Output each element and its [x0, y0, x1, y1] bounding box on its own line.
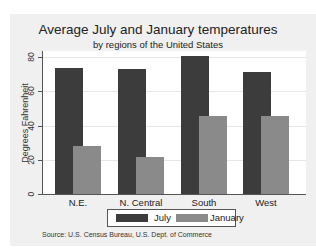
- legend-swatch-january: [176, 214, 208, 222]
- x-tick-label: South: [169, 197, 239, 208]
- y-tick-mark: [38, 194, 42, 195]
- y-axis: [42, 51, 43, 195]
- legend-label-july: July: [154, 212, 171, 223]
- y-tick-label: 80: [26, 50, 36, 64]
- x-tick-label: N. Central: [106, 197, 176, 208]
- gridline: [42, 57, 306, 58]
- bar-january: [73, 146, 101, 194]
- y-tick-mark: [38, 57, 42, 58]
- x-tick-label: West: [231, 197, 301, 208]
- y-tick-mark: [38, 91, 42, 92]
- bar-january: [199, 116, 227, 194]
- y-tick-mark: [38, 126, 42, 127]
- chart-subtitle: by regions of the United States: [0, 39, 316, 50]
- x-axis: [42, 194, 306, 195]
- legend-label-january: January: [210, 212, 244, 223]
- bar-january: [261, 116, 289, 194]
- y-tick-label: 0: [26, 187, 36, 201]
- y-axis-title: Degrees Fahrenheit: [19, 78, 31, 168]
- source-note: Source: U.S. Census Bureau, U.S. Dept. o…: [42, 231, 212, 238]
- legend: July January: [107, 209, 236, 227]
- bar-january: [136, 157, 164, 194]
- x-tick-label: N.E.: [43, 197, 113, 208]
- legend-swatch-july: [116, 214, 148, 222]
- y-tick-mark: [38, 160, 42, 161]
- chart-title: Average July and January temperatures: [0, 22, 316, 37]
